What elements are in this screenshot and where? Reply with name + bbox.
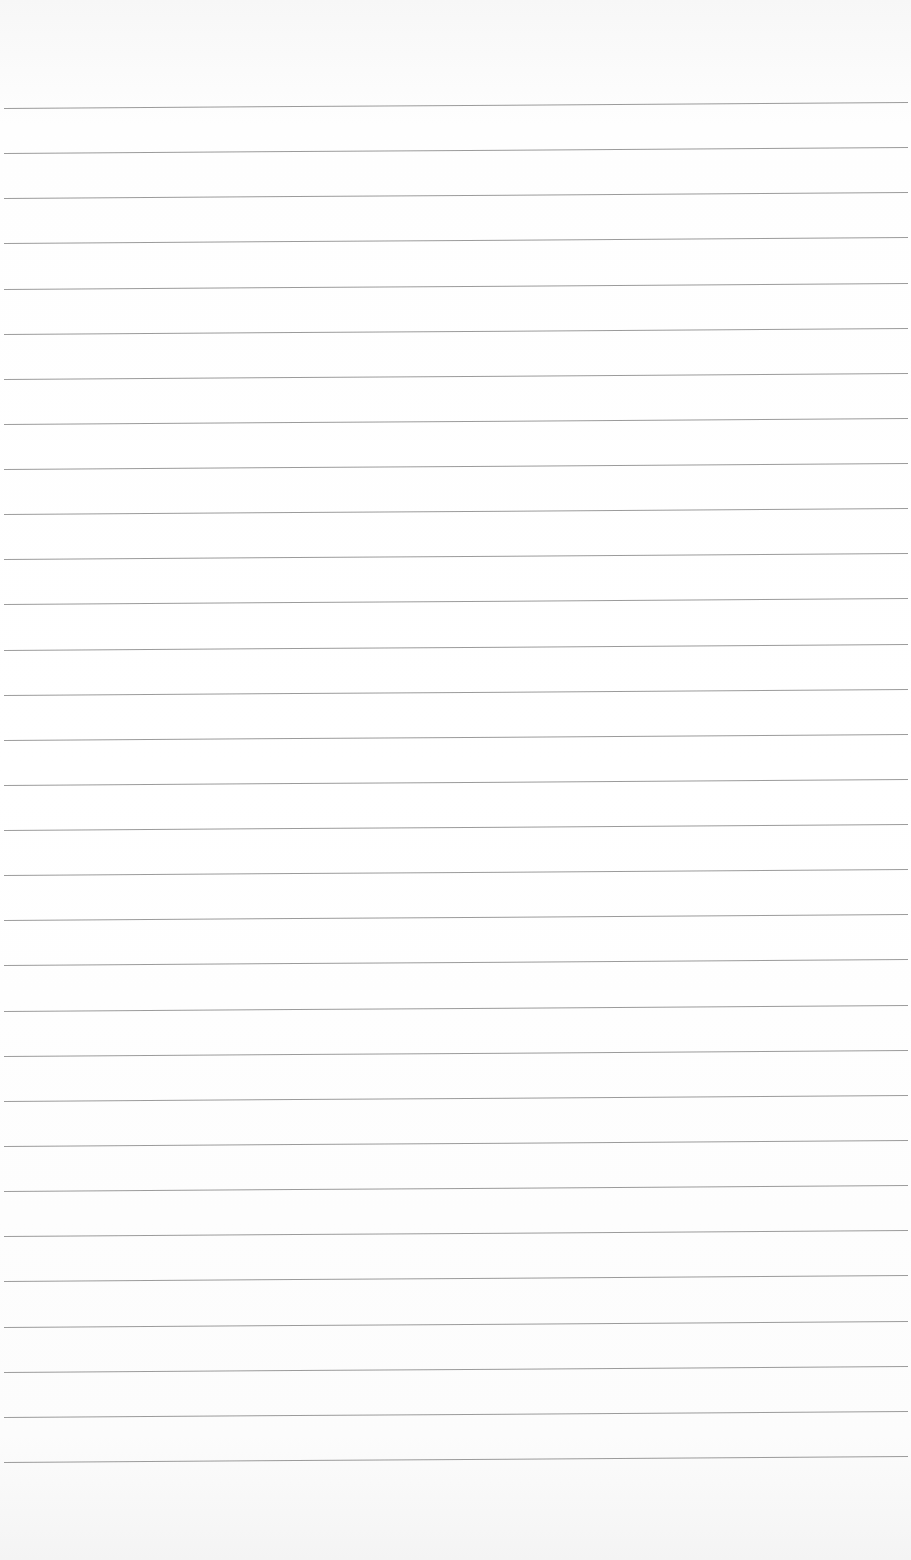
ruled-line — [4, 553, 908, 560]
ruled-line — [4, 373, 908, 380]
ruled-paper-sheet — [0, 0, 911, 1560]
ruled-line — [4, 959, 908, 966]
ruled-line — [4, 734, 908, 741]
ruled-line — [4, 644, 908, 651]
ruled-line — [4, 1366, 908, 1373]
ruled-line — [4, 914, 908, 921]
ruled-line — [4, 1230, 908, 1237]
ruled-line — [4, 418, 908, 425]
ruled-line — [4, 102, 908, 109]
ruled-line — [4, 1095, 908, 1102]
ruled-line — [4, 1456, 908, 1463]
ruled-line — [4, 147, 908, 154]
ruled-line — [4, 779, 908, 786]
ruled-line — [4, 824, 908, 831]
ruled-line — [4, 463, 908, 470]
ruled-line — [4, 328, 908, 335]
ruled-line — [4, 237, 908, 244]
ruled-line — [4, 1140, 908, 1147]
ruled-line — [4, 1050, 908, 1057]
ruled-line — [4, 598, 908, 605]
ruled-line — [4, 1185, 908, 1192]
ruled-line — [4, 869, 908, 876]
ruled-line — [4, 1321, 908, 1328]
ruled-line — [4, 689, 908, 696]
ruled-line — [4, 192, 908, 199]
ruled-line — [4, 1005, 908, 1012]
ruled-line — [4, 283, 908, 290]
ruled-line — [4, 1275, 908, 1282]
ruled-line — [4, 1411, 908, 1418]
ruled-line — [4, 508, 908, 515]
